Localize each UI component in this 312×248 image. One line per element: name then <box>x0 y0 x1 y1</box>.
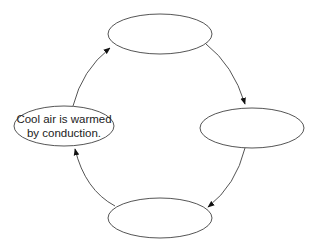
arrow-left-to-top <box>73 48 110 106</box>
node-right <box>200 108 304 148</box>
node-left-label-line2: by conduction. <box>14 126 114 140</box>
node-left-label-line1: Cool air is warmed <box>14 112 114 126</box>
node-bottom <box>108 198 212 238</box>
arrow-right-to-bottom <box>208 148 245 207</box>
arrow-bottom-to-left <box>75 149 115 206</box>
arrow-top-to-right <box>206 44 245 104</box>
node-top <box>108 14 212 54</box>
node-left-label: Cool air is warmed by conduction. <box>14 112 114 140</box>
